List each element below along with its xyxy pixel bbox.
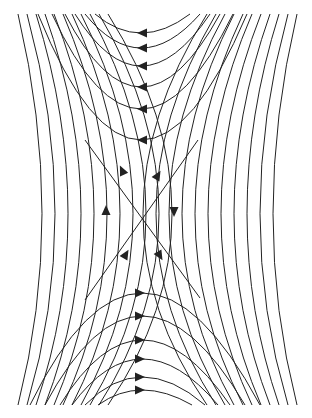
arrow-icon [135,373,145,382]
trajectory [234,14,270,405]
trajectory [75,14,210,66]
trajectory [273,14,297,405]
arrow-icon [135,355,145,364]
arrow-icon [170,207,179,217]
trajectory [45,14,81,405]
arrow-icon [137,29,147,38]
trajectory [54,14,94,405]
trajectory [221,14,261,405]
trajectory [169,14,225,405]
saddle-phase-portrait [0,0,312,418]
arrow-icon [102,205,111,215]
arrow-icon [137,105,147,114]
trajectory [27,14,55,405]
arrowheads [102,29,179,395]
trajectory [45,316,245,405]
trajectory [72,14,120,405]
trajectory [90,14,146,405]
trajectories [18,14,297,405]
arrow-icon [152,168,165,181]
arrow-icon [135,386,145,395]
trajectory [208,14,252,405]
arrow-icon [135,289,145,298]
trajectory [98,390,192,405]
trajectory [260,14,288,405]
arrow-icon [137,83,147,92]
trajectory [18,14,42,405]
arrow-icon [137,44,147,53]
